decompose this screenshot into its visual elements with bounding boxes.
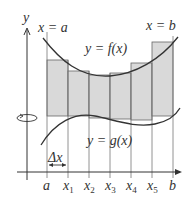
slice-5 [131,63,152,120]
slice-1 [47,60,68,116]
svg-text:x5: x5 [146,178,158,195]
svg-text:x2: x2 [83,178,95,195]
y-axis-label: y [21,10,30,25]
svg-text:x4: x4 [125,178,137,195]
svg-text:b: b [169,178,176,193]
slice-4 [110,73,131,119]
left-bound-label: x = a [37,20,68,35]
f-curve-label: y = f(x) [83,41,127,57]
g-curve-label: y = g(x) [85,133,133,149]
x-axis-arrow-icon [175,169,182,175]
svg-text:a: a [43,178,50,193]
slice-3 [89,75,110,118]
svg-text:x1: x1 [62,178,74,195]
delta-x-label: Δx [47,150,63,165]
slice-2 [68,71,89,116]
tick-labels: a x1 x2 x3 x4 x5 b [43,178,176,195]
right-bound-label: x = b [145,18,176,33]
washer-diagram: y x = a x = b y = f(x) y = g(x) Δx a x1 … [0,0,196,203]
svg-text:x3: x3 [104,178,116,195]
